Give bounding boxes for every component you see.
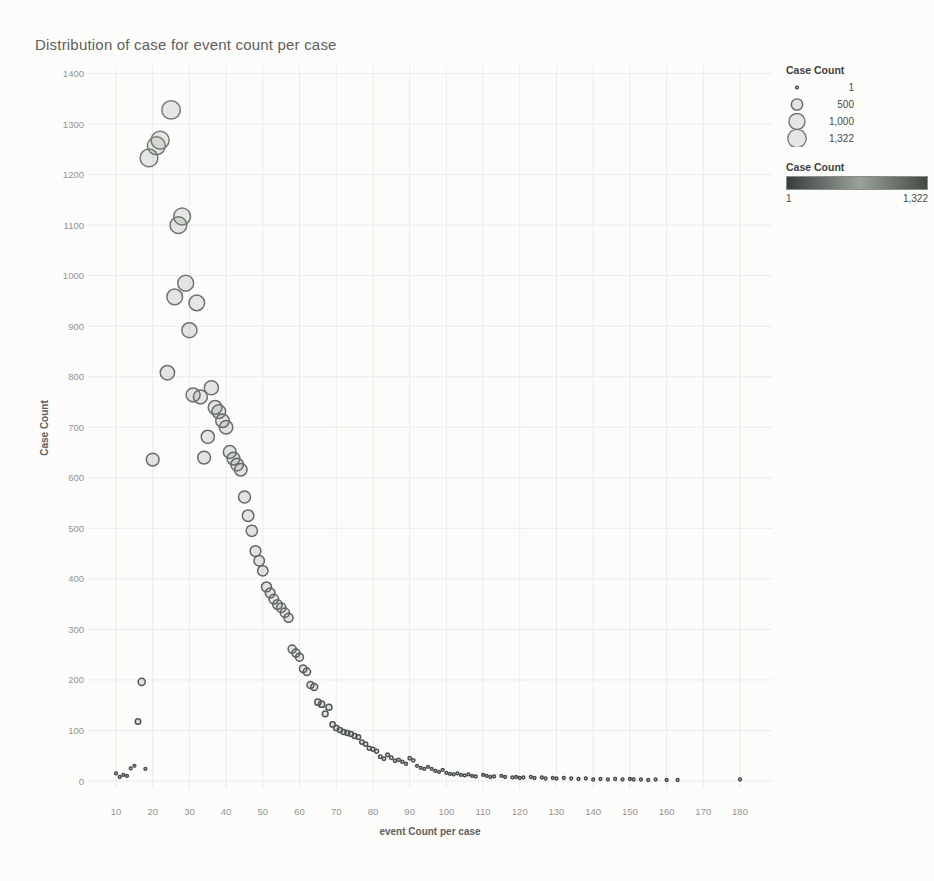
- data-point[interactable]: [239, 491, 251, 503]
- data-point[interactable]: [460, 774, 463, 777]
- data-point[interactable]: [174, 208, 191, 225]
- data-point[interactable]: [204, 381, 218, 395]
- data-point[interactable]: [189, 295, 205, 311]
- data-point[interactable]: [115, 772, 118, 775]
- data-point[interactable]: [296, 653, 304, 661]
- data-point[interactable]: [584, 777, 587, 780]
- data-point[interactable]: [607, 778, 610, 781]
- data-point[interactable]: [322, 711, 328, 717]
- data-point[interactable]: [665, 779, 668, 782]
- data-point[interactable]: [438, 771, 441, 774]
- data-point[interactable]: [393, 759, 396, 762]
- data-point[interactable]: [412, 759, 415, 762]
- data-point[interactable]: [133, 764, 136, 767]
- data-point[interactable]: [401, 760, 404, 763]
- data-point[interactable]: [522, 776, 525, 779]
- data-point[interactable]: [533, 777, 536, 780]
- data-point[interactable]: [544, 777, 547, 780]
- data-point[interactable]: [397, 758, 400, 761]
- data-point[interactable]: [427, 765, 430, 768]
- data-point[interactable]: [284, 613, 293, 622]
- data-point[interactable]: [456, 772, 459, 775]
- data-point[interactable]: [405, 762, 408, 765]
- data-point[interactable]: [485, 775, 488, 778]
- data-point[interactable]: [423, 768, 426, 771]
- data-point[interactable]: [529, 776, 532, 779]
- data-point[interactable]: [500, 775, 503, 778]
- data-point[interactable]: [198, 451, 211, 464]
- data-point[interactable]: [511, 776, 514, 779]
- data-point[interactable]: [390, 756, 393, 759]
- data-point[interactable]: [463, 774, 466, 777]
- data-point[interactable]: [386, 753, 390, 757]
- data-point[interactable]: [599, 778, 602, 781]
- data-point[interactable]: [242, 510, 254, 522]
- data-point[interactable]: [562, 777, 565, 780]
- data-point[interactable]: [178, 275, 194, 291]
- data-point[interactable]: [318, 701, 324, 707]
- data-point[interactable]: [135, 719, 141, 725]
- data-point[interactable]: [375, 749, 379, 753]
- data-point[interactable]: [160, 366, 174, 380]
- data-point[interactable]: [167, 289, 183, 305]
- size-legend-row[interactable]: 1,000: [786, 113, 928, 130]
- data-point[interactable]: [434, 770, 437, 773]
- data-point[interactable]: [122, 774, 125, 777]
- data-point[interactable]: [144, 768, 147, 771]
- data-point[interactable]: [138, 678, 145, 685]
- data-point[interactable]: [504, 776, 507, 779]
- data-point[interactable]: [356, 735, 361, 740]
- data-point[interactable]: [614, 778, 617, 781]
- data-point[interactable]: [739, 778, 742, 781]
- data-point[interactable]: [254, 555, 265, 566]
- color-gradient-bar[interactable]: [786, 176, 928, 190]
- data-point[interactable]: [126, 775, 129, 778]
- data-point[interactable]: [551, 777, 554, 780]
- size-legend-row[interactable]: 500: [786, 96, 928, 113]
- data-point[interactable]: [632, 778, 635, 781]
- data-point[interactable]: [449, 773, 452, 776]
- data-point[interactable]: [647, 779, 650, 782]
- data-point[interactable]: [467, 773, 470, 776]
- data-point[interactable]: [555, 777, 558, 780]
- data-point[interactable]: [162, 101, 180, 119]
- size-legend-row[interactable]: 1: [786, 79, 928, 96]
- data-point[interactable]: [441, 769, 444, 772]
- size-legend-row[interactable]: 1,322: [786, 130, 928, 147]
- data-point[interactable]: [408, 757, 411, 760]
- data-point[interactable]: [258, 566, 268, 576]
- data-point[interactable]: [151, 131, 169, 149]
- data-point[interactable]: [363, 742, 367, 746]
- data-point[interactable]: [445, 772, 448, 775]
- data-point[interactable]: [430, 768, 433, 771]
- data-point[interactable]: [621, 778, 624, 781]
- data-point[interactable]: [452, 773, 455, 776]
- data-point[interactable]: [379, 755, 383, 759]
- data-point[interactable]: [489, 776, 492, 779]
- data-point[interactable]: [482, 774, 485, 777]
- data-point[interactable]: [303, 668, 310, 675]
- data-point[interactable]: [540, 776, 543, 779]
- data-point[interactable]: [493, 775, 496, 778]
- data-point[interactable]: [515, 776, 518, 779]
- data-point[interactable]: [146, 453, 159, 466]
- data-point[interactable]: [518, 777, 521, 780]
- data-point[interactable]: [311, 684, 318, 691]
- data-point[interactable]: [182, 323, 197, 338]
- data-point[interactable]: [246, 525, 257, 536]
- data-point[interactable]: [201, 430, 214, 443]
- data-point[interactable]: [676, 779, 679, 782]
- data-point[interactable]: [570, 777, 573, 780]
- data-point[interactable]: [577, 778, 580, 781]
- data-point[interactable]: [654, 778, 657, 781]
- data-point[interactable]: [419, 767, 422, 770]
- data-point[interactable]: [592, 778, 595, 781]
- data-point[interactable]: [235, 463, 248, 476]
- data-point[interactable]: [118, 776, 121, 779]
- data-point[interactable]: [416, 764, 419, 767]
- data-point[interactable]: [382, 757, 385, 760]
- data-point[interactable]: [219, 421, 232, 434]
- data-point[interactable]: [471, 775, 474, 778]
- data-point[interactable]: [129, 767, 132, 770]
- data-point[interactable]: [640, 778, 643, 781]
